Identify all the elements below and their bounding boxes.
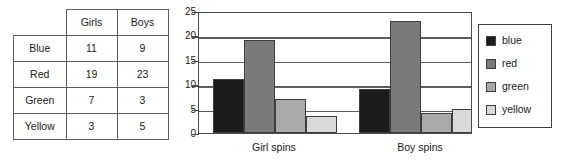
cell-red-girls: 19 <box>66 62 117 88</box>
cell-green-boys: 3 <box>117 88 168 114</box>
bar-green-boy-spins <box>421 113 452 133</box>
x-label-boy-spins: Boy spins <box>358 141 482 154</box>
table-row: Yellow 3 5 <box>14 114 169 140</box>
legend-item-yellow[interactable]: yellow <box>486 104 531 115</box>
bar-red-boy-spins <box>390 21 421 133</box>
legend-swatch-green-icon <box>486 82 496 92</box>
legend-swatch-yellow-icon <box>486 105 496 115</box>
bar-blue-girl-spins <box>213 79 244 133</box>
legend-item-red[interactable]: red <box>486 58 517 69</box>
legend-label-yellow: yellow <box>502 104 531 115</box>
cell-green-girls: 7 <box>66 88 117 114</box>
y-tick-mark <box>192 12 199 13</box>
legend-swatch-red-icon <box>486 59 496 69</box>
table-row: Green 7 3 <box>14 88 169 114</box>
y-tick-mark <box>192 110 199 111</box>
bar-green-girl-spins <box>275 99 306 133</box>
x-label-girl-spins: Girl spins <box>212 141 336 154</box>
bar-blue-boy-spins <box>359 89 390 133</box>
cell-red-boys: 23 <box>117 62 168 88</box>
legend-swatch-blue-icon <box>486 36 496 46</box>
table-row: Red 19 23 <box>14 62 169 88</box>
cell-blue-girls: 11 <box>66 36 117 62</box>
bar-chart: 0510152025 Girl spinsBoy spins <box>174 8 474 158</box>
y-tick-mark <box>192 85 199 86</box>
row-label-yellow: Yellow <box>14 114 67 140</box>
frequency-table-container: Girls Boys Blue 11 9 Red 19 23 Green 7 3… <box>13 9 165 144</box>
column-header-boys: Boys <box>117 10 168 36</box>
bar-yellow-girl-spins <box>306 116 337 133</box>
table-row: Blue 11 9 <box>14 36 169 62</box>
legend-label-green: green <box>502 81 529 92</box>
table-corner-cell <box>14 10 67 36</box>
bar-yellow-boy-spins <box>452 109 472 133</box>
row-label-blue: Blue <box>14 36 67 62</box>
y-tick-mark <box>192 61 199 62</box>
y-tick-mark <box>192 36 199 37</box>
cell-blue-boys: 9 <box>117 36 168 62</box>
column-header-girls: Girls <box>66 10 117 36</box>
table-header-row: Girls Boys <box>14 10 169 36</box>
row-label-green: Green <box>14 88 67 114</box>
x-axis-category-labels: Girl spinsBoy spins <box>198 139 472 157</box>
chart-legend: blueredgreenyellow <box>478 24 552 128</box>
row-label-red: Red <box>14 62 67 88</box>
cell-yellow-boys: 5 <box>117 114 168 140</box>
legend-label-blue: blue <box>502 35 522 46</box>
legend-item-blue[interactable]: blue <box>486 35 522 46</box>
y-axis-tick-labels: 0510152025 <box>174 8 196 138</box>
bars-layer <box>199 13 471 133</box>
y-tick-mark <box>192 134 199 135</box>
plot-frame <box>198 12 472 134</box>
legend-item-green[interactable]: green <box>486 81 529 92</box>
frequency-table: Girls Boys Blue 11 9 Red 19 23 Green 7 3… <box>13 9 169 140</box>
cell-yellow-girls: 3 <box>66 114 117 140</box>
legend-label-red: red <box>502 58 517 69</box>
bar-red-girl-spins <box>244 40 275 133</box>
